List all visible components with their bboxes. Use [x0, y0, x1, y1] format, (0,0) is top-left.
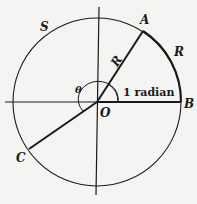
label-s: S [40, 20, 49, 34]
label-theta: θ [75, 84, 82, 95]
label-arc-r: R [173, 45, 184, 59]
radian-diagram: S A R R θ 1 radian O B C [0, 0, 197, 204]
label-b: B [183, 97, 194, 111]
radius-oc [29, 102, 97, 149]
label-o: O [100, 106, 111, 120]
label-1-radian: 1 radian [123, 86, 174, 99]
label-c: C [16, 151, 26, 165]
label-a: A [139, 13, 149, 27]
label-radius-r: R [107, 53, 125, 70]
